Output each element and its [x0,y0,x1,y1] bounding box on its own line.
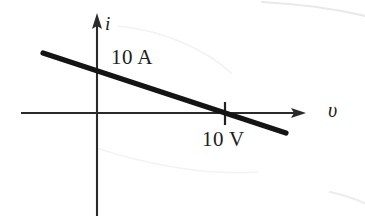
current-axis-label: i [105,14,110,33]
voltage-intercept-label: 10 V [202,129,245,150]
figure-canvas: i υ 10 A 10 V [0,0,365,222]
current-axis [92,13,102,216]
characteristic-line [43,53,286,133]
iv-characteristic-plot [0,0,365,222]
scan-artifacts [96,2,365,204]
voltage-axis [21,108,306,118]
voltage-axis-label: υ [328,100,337,120]
current-intercept-label: 10 A [111,47,153,68]
